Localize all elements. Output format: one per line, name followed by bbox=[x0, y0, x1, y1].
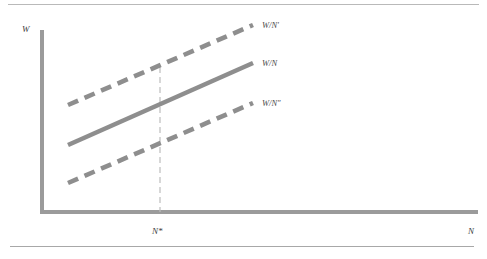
figure-panel: W N N* W/N′ W/N W/N″ bbox=[0, 0, 487, 259]
curve-label-wn: W/N bbox=[262, 58, 277, 68]
bottom-divider-rule bbox=[10, 246, 474, 247]
curve-label-wn-double-prime: W/N″ bbox=[262, 98, 281, 108]
curve-label-wn-prime: W/N′ bbox=[262, 20, 279, 30]
y-axis-title: W bbox=[22, 24, 30, 34]
n-star-tick-label: N* bbox=[152, 226, 163, 236]
x-axis-title: N bbox=[468, 226, 474, 236]
plot-canvas bbox=[0, 0, 487, 259]
